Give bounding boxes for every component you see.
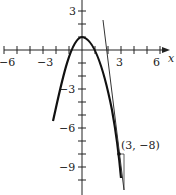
x-axis-label: x	[168, 52, 175, 65]
tangent-line	[103, 20, 124, 190]
point-marker	[117, 152, 121, 156]
y-tick-label: 3	[69, 5, 76, 18]
x-tick-label: 3	[116, 56, 123, 69]
y-tick-label: −9	[59, 161, 75, 174]
x-tick-label: −3	[37, 56, 53, 69]
point-label: (3, −8)	[121, 139, 160, 152]
parabola-curve	[53, 37, 121, 178]
x-tick-label: 6	[153, 56, 160, 69]
y-tick-label: −6	[59, 122, 75, 135]
x-tick-label: −6	[0, 56, 15, 69]
chart: −6 −3 3 6 x 3 −3 −6 −9 (3, −8)	[0, 0, 176, 195]
